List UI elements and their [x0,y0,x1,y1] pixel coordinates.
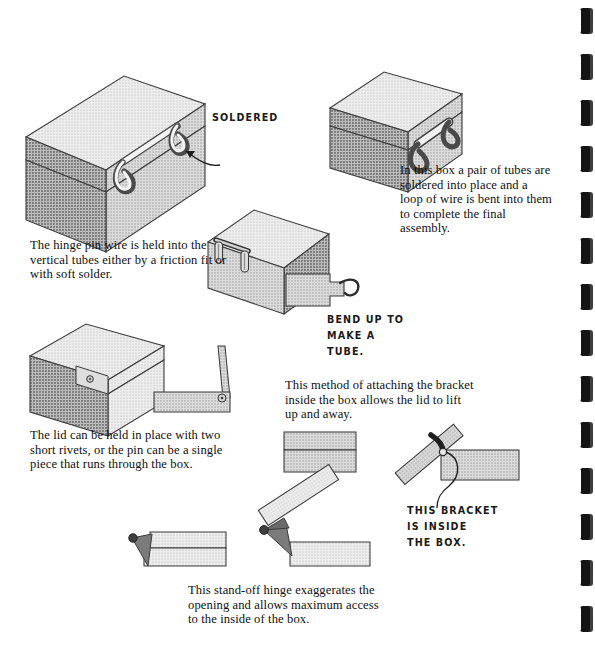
soldered-tubes-caption: In this box a pair of tubes are soldered… [400,163,552,236]
this-bracket-label-line-1: THIS BRACKET [407,503,498,519]
bend-up-label-line-2: MAKE A [327,328,404,344]
binding-hole [580,54,593,80]
soldered-label: SOLDERED [212,110,278,126]
binding-hole [580,560,593,586]
binding-hole [580,284,593,310]
bracket-method-caption: This method of attaching the bracket ins… [285,378,477,422]
stand-off-hinge-open [242,494,382,582]
flat-tab-with-curled-tongue [282,262,372,317]
bend-up-label-line-3: TUBE. [327,344,404,360]
spiral-binding-holes [569,0,595,655]
binding-hole [580,606,593,632]
binding-hole [580,422,593,448]
binding-hole [580,468,593,494]
box-with-tube-pair-hinge [322,56,472,176]
hinge-pin-caption: The hinge pin wire is held into the vert… [30,238,235,282]
binding-hole [580,146,593,172]
binding-hole [580,376,593,402]
this-bracket-label: THIS BRACKET IS INSIDE THE BOX. [407,503,498,551]
this-bracket-label-line-2: IS INSIDE [407,519,498,535]
binding-hole [580,514,593,540]
binding-hole [580,330,593,356]
book-page: In this box a pair of tubes are soldered… [0,0,595,655]
stand-off-hinge-caption: This stand-off hinge exaggerates the ope… [188,583,388,627]
lid-rivets-caption: The lid can be held in place with two sh… [30,428,240,472]
binding-hole [580,192,593,218]
soldered-label-line-1: SOLDERED [212,110,278,126]
rivet-hinge-flap-detail [148,340,253,425]
binding-hole [580,238,593,264]
binding-hole [580,8,593,34]
stand-off-hinge-closed [122,522,242,580]
bend-up-label: BEND UP TO MAKE A TUBE. [327,312,404,360]
binding-hole [580,100,593,126]
this-bracket-label-line-3: THE BOX. [407,535,498,551]
bend-up-label-line-1: BEND UP TO [327,312,404,328]
